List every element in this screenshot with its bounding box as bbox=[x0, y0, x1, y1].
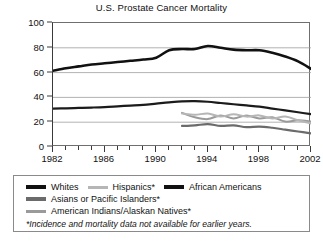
x-tick-label: 1994 bbox=[196, 153, 217, 164]
x-tick-mark bbox=[117, 146, 118, 150]
x-tick-mark bbox=[78, 146, 79, 150]
legend-label: American Indians/Alaskan Natives* bbox=[51, 206, 191, 216]
chart-figure: U.S. Prostate Cancer Mortality Mortality… bbox=[0, 0, 323, 241]
y-tick-label: 40 bbox=[33, 91, 44, 102]
legend-entry[interactable]: Asians or Pacific Islanders* bbox=[26, 194, 160, 204]
legend-swatch-icon bbox=[164, 185, 184, 189]
plot-area bbox=[52, 22, 310, 146]
y-axis: Mortality per 100,000 Men 020406080100 bbox=[0, 22, 52, 146]
legend-entry[interactable]: Hispanics* bbox=[88, 182, 156, 192]
x-tick-mark bbox=[142, 146, 143, 150]
x-tick-mark bbox=[284, 146, 285, 150]
series-line bbox=[53, 46, 311, 71]
legend-entry[interactable]: Whites bbox=[26, 182, 79, 192]
y-tick-label: 20 bbox=[33, 116, 44, 127]
legend-footnote: *Incidence and mortality data not availa… bbox=[14, 219, 309, 229]
legend-swatch-icon bbox=[26, 197, 46, 200]
x-tick-mark bbox=[246, 146, 247, 150]
x-tick-mark bbox=[271, 146, 272, 150]
chart-legend: WhitesHispanics*African AmericansAsians … bbox=[13, 175, 310, 232]
x-tick-mark bbox=[168, 146, 169, 150]
legend-row: WhitesHispanics*African Americans bbox=[14, 181, 309, 193]
x-tick-mark bbox=[310, 146, 311, 152]
legend-label: African Americans bbox=[189, 182, 262, 192]
legend-label: Whites bbox=[51, 182, 79, 192]
x-tick-label: 2002 bbox=[299, 153, 320, 164]
legend-row: Asians or Pacific Islanders* bbox=[14, 193, 309, 205]
legend-row: American Indians/Alaskan Natives* bbox=[14, 205, 309, 217]
x-tick-mark bbox=[65, 146, 66, 150]
x-tick-label: 1990 bbox=[145, 153, 166, 164]
series-lines bbox=[53, 23, 311, 147]
legend-swatch-icon bbox=[88, 186, 108, 189]
legend-label: Asians or Pacific Islanders* bbox=[51, 194, 160, 204]
x-tick-mark bbox=[233, 146, 234, 150]
y-tick-label: 80 bbox=[33, 41, 44, 52]
y-tick-label: 60 bbox=[33, 66, 44, 77]
x-axis: 198219861990199419982002 bbox=[52, 146, 310, 168]
legend-label: Hispanics* bbox=[113, 182, 156, 192]
x-tick-label: 1998 bbox=[248, 153, 269, 164]
legend-entry[interactable]: American Indians/Alaskan Natives* bbox=[26, 206, 191, 216]
legend-entry[interactable]: African Americans bbox=[164, 182, 262, 192]
x-tick-mark bbox=[129, 146, 130, 150]
x-tick-mark bbox=[258, 146, 259, 152]
legend-swatch-icon bbox=[26, 185, 46, 188]
x-tick-label: 1982 bbox=[41, 153, 62, 164]
x-tick-mark bbox=[207, 146, 208, 152]
series-line bbox=[182, 124, 311, 133]
legend-rows: WhitesHispanics*African AmericansAsians … bbox=[14, 181, 309, 217]
x-tick-label: 1986 bbox=[93, 153, 114, 164]
x-tick-mark bbox=[91, 146, 92, 150]
x-tick-mark bbox=[104, 146, 105, 152]
x-tick-mark bbox=[181, 146, 182, 150]
x-tick-mark bbox=[155, 146, 156, 152]
y-tick-label: 0 bbox=[39, 141, 44, 152]
x-tick-mark bbox=[297, 146, 298, 150]
x-tick-mark bbox=[220, 146, 221, 150]
x-tick-mark bbox=[52, 146, 53, 152]
chart-title: U.S. Prostate Cancer Mortality bbox=[0, 2, 323, 13]
x-tick-mark bbox=[194, 146, 195, 150]
legend-swatch-icon bbox=[26, 210, 46, 213]
y-tick-label: 100 bbox=[28, 17, 44, 28]
